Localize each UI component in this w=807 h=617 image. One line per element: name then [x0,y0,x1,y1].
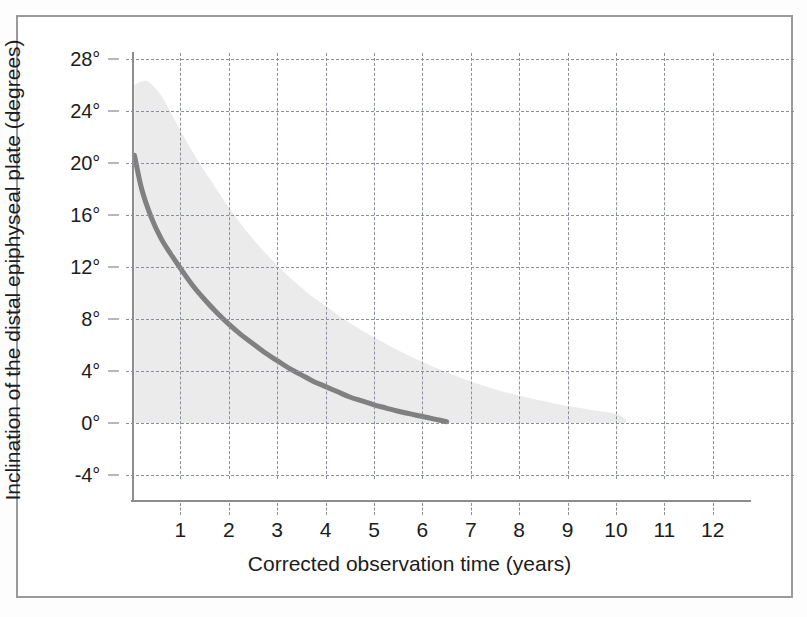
gridline-vertical [277,53,278,479]
x-tick-mark [180,503,181,515]
gridline-horizontal [126,215,794,216]
x-tick-mark [616,503,617,515]
x-tick-mark [713,503,714,515]
gridline-horizontal [126,475,794,476]
y-tick-label: 20° [30,152,100,175]
x-axis-title-text: Corrected observation time (years) [248,552,571,576]
x-tick-label: 12 [683,518,743,542]
y-axis-title: Inclination of the distal epiphyseal pla… [1,5,25,535]
x-tick-mark [471,503,472,515]
y-tick-label: 24° [30,100,100,123]
y-tick-mark [108,163,119,164]
plot-area [132,59,794,475]
gridline-vertical [422,53,423,479]
gridline-vertical [374,53,375,479]
y-tick-label: 12° [30,256,100,279]
gridline-vertical [616,53,617,479]
y-tick-mark [108,111,119,112]
x-tick-mark [519,503,520,515]
y-tick-mark [108,267,119,268]
x-tick-mark [229,503,230,515]
x-tick-mark [568,503,569,515]
y-tick-mark [108,423,119,424]
gridline-horizontal [126,423,794,424]
x-axis-line [131,500,751,502]
y-tick-mark [108,319,119,320]
y-tick-label: 4° [30,360,100,383]
x-tick-mark [422,503,423,515]
gridline-horizontal [126,59,794,60]
gridline-vertical [326,53,327,479]
gridline-vertical [664,53,665,479]
gridline-horizontal [126,267,794,268]
y-tick-mark [108,371,119,372]
gridline-vertical [229,53,230,479]
y-tick-mark [108,59,119,60]
gridline-vertical [180,53,181,479]
x-tick-mark [374,503,375,515]
gridline-horizontal [126,111,794,112]
gridline-vertical [568,53,569,479]
gridline-horizontal [126,371,794,372]
y-tick-mark [108,215,119,216]
y-tick-mark [108,475,119,476]
gridline-horizontal [126,163,794,164]
y-axis-title-text: Inclination of the distal epiphyseal pla… [1,39,24,500]
y-tick-label: -4° [30,464,100,487]
gridline-vertical [713,53,714,479]
y-tick-label: 16° [30,204,100,227]
figure-container: -4°0°4°8°12°16°20°24°28°123456789101112 … [0,0,807,617]
x-tick-mark [664,503,665,515]
x-tick-mark [277,503,278,515]
x-axis-title: Corrected observation time (years) [0,552,807,576]
gridline-horizontal [126,319,794,320]
y-tick-label: 0° [30,412,100,435]
y-tick-label: 8° [30,308,100,331]
gridline-vertical [471,53,472,479]
y-tick-label: 28° [30,48,100,71]
gridline-vertical [519,53,520,479]
x-tick-mark [326,503,327,515]
